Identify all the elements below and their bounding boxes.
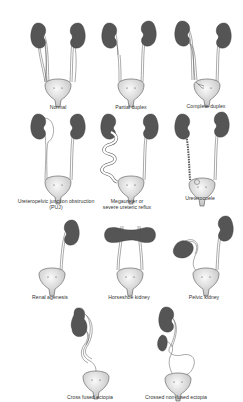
partial-duplex-illustration	[81, 0, 162, 110]
figure-pelvic: Pelvic kidney	[162, 220, 243, 305]
label-cross-fused: Cross fused ectopia	[67, 394, 113, 400]
renal-agenesis-illustration	[0, 220, 81, 305]
label-pelvic: Pelvic kidney	[189, 294, 219, 300]
figure-renal-agenesis: Renal agenesis	[0, 220, 81, 305]
ureterocoele-illustration	[162, 110, 243, 220]
horseshoe-kidney-illustration	[81, 220, 162, 305]
figure-cross-fused: Cross fused ectopia	[60, 305, 130, 402]
figure-horseshoe: Horseshoe kidney	[81, 220, 162, 305]
complete-duplex-illustration	[162, 0, 243, 110]
figure-crossed-non-fused: Crossed non-fused ectopia	[140, 305, 220, 402]
figure-complete-duplex: Complete duplex	[162, 0, 243, 110]
normal-urinary-tract-illustration	[0, 0, 81, 110]
label-horseshoe: Horseshoe kidney	[108, 294, 150, 300]
figure-ureterocoele: Ureterocoele	[162, 110, 243, 220]
crossed-non-fused-ectopia-illustration	[140, 305, 220, 402]
figure-normal: Normal	[0, 0, 81, 110]
label-complete-duplex: Complete duplex	[187, 103, 226, 109]
label-crossed-non-fused: Crossed non-fused ectopia	[145, 394, 207, 400]
cross-fused-ectopia-illustration	[60, 305, 130, 402]
figure-puj: Ureteropelvic junction obstruction (PUJ)	[0, 110, 81, 220]
label-ureterocoele: Ureterocoele	[185, 195, 215, 201]
label-megaureter-2: severe ureteric reflux	[103, 204, 151, 210]
figure-megaureter: Megaureter or severe ureteric reflux	[81, 110, 162, 220]
pelvic-kidney-illustration	[162, 220, 243, 305]
label-renal-agenesis: Renal agenesis	[32, 294, 68, 300]
label-puj-abbrev: (PUJ)	[49, 204, 62, 210]
figure-partial-duplex: Partial duplex	[81, 0, 162, 110]
